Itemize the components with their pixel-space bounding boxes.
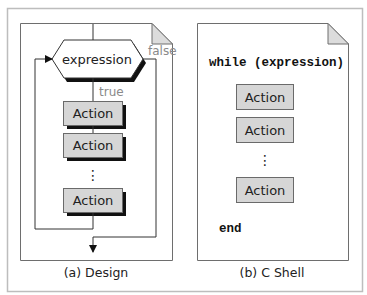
cshell-action-label-1: Action bbox=[245, 90, 286, 105]
cshell-action-label-3: Action bbox=[245, 183, 286, 198]
cshell-document-fold-icon bbox=[328, 24, 349, 45]
design-caption: (a) Design bbox=[64, 265, 129, 280]
design-action-label-2: Action bbox=[73, 138, 114, 153]
design-action-label-3: Action bbox=[73, 193, 114, 208]
cshell-ellipsis: ⋮ bbox=[258, 152, 272, 168]
condition-label: expression bbox=[62, 52, 132, 67]
cshell-action-label-2: Action bbox=[245, 123, 286, 138]
design-panel: expression false true Action Action ⋮ Ac… bbox=[21, 24, 177, 281]
true-label: true bbox=[99, 85, 124, 99]
design-ellipsis: ⋮ bbox=[86, 167, 100, 183]
false-label: false bbox=[148, 44, 177, 58]
cshell-footer-code: end bbox=[219, 222, 242, 236]
design-action-label-1: Action bbox=[73, 106, 114, 121]
cshell-caption: (b) C Shell bbox=[240, 265, 305, 280]
design-document-fold-icon bbox=[152, 24, 173, 45]
cshell-header-code: while (expression) bbox=[209, 56, 344, 70]
cshell-panel: while (expression) Action Action ⋮ Actio… bbox=[198, 24, 349, 281]
diagram-canvas: expression false true Action Action ⋮ Ac… bbox=[0, 0, 367, 295]
